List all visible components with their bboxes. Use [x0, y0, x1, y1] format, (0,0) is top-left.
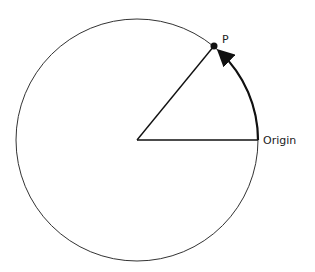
- point-p-dot: [211, 43, 218, 50]
- origin-label: Origin: [263, 134, 296, 147]
- circle-diagram: P Origin: [0, 0, 315, 272]
- rotation-arc-arrow: [220, 52, 258, 140]
- radius-to-p: [137, 46, 214, 140]
- point-p-label: P: [222, 33, 229, 46]
